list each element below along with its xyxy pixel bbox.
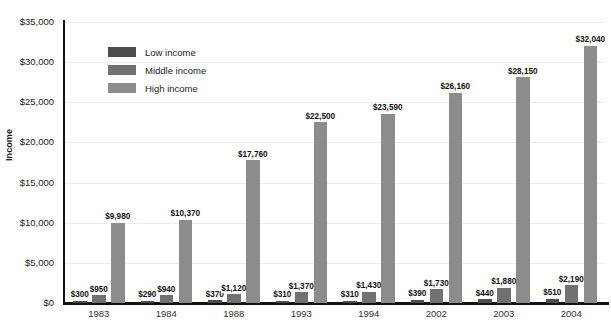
bar (227, 294, 241, 303)
bar (362, 292, 376, 303)
legend-item-label: Low income (145, 47, 196, 58)
bar-value-label: $300 (70, 290, 89, 299)
bar (295, 292, 309, 303)
y-axis-tick-label: $35,000 (0, 16, 54, 27)
bar-value-label: $32,040 (575, 35, 606, 44)
bar-value-label: $26,160 (440, 82, 471, 91)
bar-value-label: $950 (89, 285, 108, 294)
legend-swatch-icon (108, 83, 136, 93)
legend-item-label: Middle income (145, 65, 206, 76)
bar-value-label: $290 (138, 290, 157, 299)
bar (141, 301, 155, 303)
legend-item[interactable]: Low income (108, 44, 206, 60)
bar-value-label: $390 (408, 289, 427, 298)
bar (246, 160, 260, 303)
legend-swatch-icon (108, 47, 136, 57)
bar (565, 285, 579, 303)
bar-value-label: $28,150 (507, 67, 538, 76)
bar-value-label: $1,370 (288, 282, 314, 291)
bar (314, 122, 328, 303)
bar (92, 295, 106, 303)
bar-value-label: $17,760 (237, 150, 268, 159)
bar (478, 299, 492, 303)
bar-value-label: $2,190 (558, 275, 584, 284)
bar (449, 93, 463, 303)
bar (584, 46, 598, 303)
bar (546, 299, 560, 303)
bar-value-label: $1,880 (491, 277, 517, 286)
y-axis-tick-label: $20,000 (0, 136, 54, 147)
bar-value-label: $440 (475, 289, 494, 298)
y-axis-tick-label: $25,000 (0, 96, 54, 107)
y-axis-tick-label: $5,000 (0, 257, 54, 268)
x-axis-tick-label: 2004 (531, 308, 611, 319)
bar-group: $370$1,120$17,760 (208, 22, 260, 303)
bar (430, 289, 444, 303)
bar-group: $390$1,730$26,160 (411, 22, 463, 303)
bar-value-label: $1,120 (221, 284, 247, 293)
y-axis-tick-label: $30,000 (0, 56, 54, 67)
bar-group: $440$1,880$28,150 (478, 22, 530, 303)
bar-value-label: $510 (543, 288, 562, 297)
bar (160, 295, 174, 303)
y-axis-tick-label: $0 (0, 297, 54, 308)
bar (179, 220, 193, 303)
bar-value-label: $10,370 (170, 209, 201, 218)
bar-value-label: $1,730 (423, 279, 449, 288)
bar (208, 300, 222, 303)
bar-value-label: $310 (273, 290, 292, 299)
bar (73, 301, 87, 303)
bar-value-label: $940 (157, 285, 176, 294)
bar-value-label: $310 (340, 290, 359, 299)
bar-chart: Income $0$5,000$10,000$15,000$20,000$25,… (0, 0, 611, 325)
bar-group: $310$1,430$23,590 (343, 22, 395, 303)
chart-legend: Low incomeMiddle incomeHigh income (108, 44, 206, 98)
y-axis-tick-label: $15,000 (0, 177, 54, 188)
bar (343, 301, 357, 303)
bar (516, 77, 530, 303)
legend-item[interactable]: High income (108, 80, 206, 96)
legend-item-label: High income (145, 83, 198, 94)
y-axis-tick-label: $10,000 (0, 217, 54, 228)
bar-value-label: $9,980 (105, 212, 131, 221)
bar (276, 301, 290, 303)
bar (381, 114, 395, 303)
bar-group: $310$1,370$22,500 (276, 22, 328, 303)
bar-value-label: $1,430 (356, 281, 382, 290)
bar (497, 288, 511, 303)
bar-value-label: $23,590 (372, 103, 403, 112)
bar-value-label: $22,500 (305, 112, 336, 121)
bar (111, 223, 125, 303)
legend-swatch-icon (108, 65, 136, 75)
bar (411, 300, 425, 303)
bar-group: $510$2,190$32,040 (546, 22, 598, 303)
legend-item[interactable]: Middle income (108, 62, 206, 78)
